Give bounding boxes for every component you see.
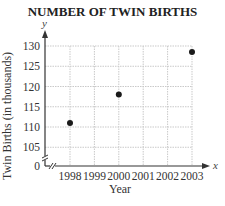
svg-text:y: y (41, 17, 47, 29)
svg-text:x: x (212, 159, 218, 171)
svg-text:2001: 2001 (132, 170, 155, 182)
svg-text:2002: 2002 (156, 170, 179, 182)
data-points (67, 49, 195, 126)
svg-text:0: 0 (34, 160, 40, 172)
data-point (116, 92, 122, 98)
svg-text:115: 115 (23, 101, 40, 113)
svg-text:125: 125 (23, 60, 41, 72)
scatter-plot: yx01051101151201251301998199920002001200… (0, 0, 225, 206)
svg-text:130: 130 (23, 40, 41, 52)
svg-text:2003: 2003 (181, 170, 204, 182)
data-point (189, 49, 195, 55)
svg-text:Twin Births (in thousands): Twin Births (in thousands) (0, 52, 14, 180)
svg-text:2000: 2000 (107, 170, 130, 182)
svg-text:120: 120 (23, 81, 41, 93)
svg-text:1998: 1998 (59, 170, 82, 182)
gridlines (45, 46, 192, 166)
svg-text:110: 110 (23, 121, 40, 133)
svg-text:1999: 1999 (83, 170, 106, 182)
data-point (67, 120, 73, 126)
svg-text:Year: Year (109, 182, 131, 196)
svg-text:105: 105 (23, 141, 41, 153)
axes (42, 30, 210, 169)
